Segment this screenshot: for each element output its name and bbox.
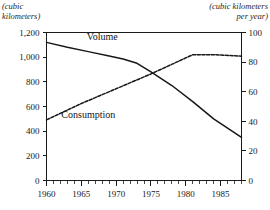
y-left-tick-label: 400 (26, 126, 40, 136)
chart-screenshot: (cubickilometers) (cubic kilometersper y… (0, 0, 270, 210)
y-right-tick-label: 20 (249, 146, 259, 156)
series-annotation-label: Consumption (61, 109, 115, 120)
y-right-tick-label: 100 (249, 28, 263, 38)
series-annotation-label: Volume (87, 31, 118, 42)
x-major-tick-label: 1965 (72, 189, 91, 199)
series-group (47, 42, 242, 137)
y-right-tick-label: 60 (249, 87, 259, 97)
y-left-tick-label: 1,200 (19, 28, 40, 38)
x-major-tick-group: 196019651970197519801985 (38, 181, 231, 199)
y-right-tick-label: 40 (249, 117, 259, 127)
y-right-tick-group: 020406080100 (242, 28, 263, 186)
series-annotation-group: VolumeConsumption (61, 31, 118, 120)
x-major-tick-label: 1975 (142, 189, 161, 199)
x-major-tick-label: 1980 (177, 189, 196, 199)
x-major-tick-label: 1960 (38, 189, 57, 199)
y-left-tick-label: 600 (26, 102, 40, 112)
y-left-tick-label: 0 (35, 176, 40, 186)
line-chart-plot: 02004006008001,0001,200 020406080100 196… (0, 0, 270, 210)
y-right-tick-label: 80 (249, 57, 259, 67)
series-line-volume (47, 42, 242, 137)
y-left-tick-group: 02004006008001,0001,200 (19, 28, 46, 186)
y-left-tick-label: 200 (26, 151, 40, 161)
y-left-tick-label: 800 (26, 77, 40, 87)
y-right-tick-label: 0 (249, 176, 254, 186)
x-major-tick-label: 1970 (107, 189, 126, 199)
x-major-tick-label: 1985 (212, 189, 231, 199)
y-left-tick-label: 1,000 (19, 52, 40, 62)
